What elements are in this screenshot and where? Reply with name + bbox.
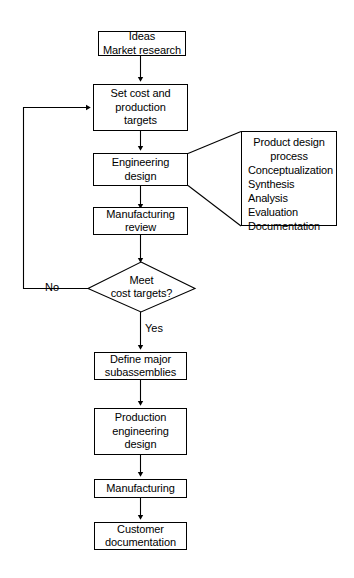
node-set-cost-line2: production [115,101,165,115]
callout-line-bottom [188,186,241,227]
node-customer-documentation[interactable]: Customer documentation [94,522,187,550]
node-subassemblies-line2: subassemblies [105,366,176,380]
node-manufacturing-line1: Manufacturing [106,482,174,496]
node-ideas-line2: Market research [103,44,181,58]
node-engineering-design[interactable]: Engineering design [93,153,188,186]
node-engineering-line1: Engineering [112,156,170,170]
node-set-cost-line3: targets [124,114,157,128]
callout-title-line2: process [242,149,336,163]
connector-decision-no-feedback-loop [24,108,90,289]
callout-item-documentation: Documentation [242,219,336,233]
edge-label-yes: Yes [145,322,163,335]
flowchart-canvas: Ideas Market research Set cost and produ… [0,0,354,578]
callout-title-line1: Product design [242,135,336,149]
node-manufacturing[interactable]: Manufacturing [94,479,187,498]
node-production-line3: design [125,438,157,452]
node-customerdoc-line1: Customer [117,523,164,537]
node-subassemblies-line1: Define major [110,353,171,367]
node-ideas[interactable]: Ideas Market research [98,31,186,56]
node-define-major-subassemblies[interactable]: Define major subassemblies [94,352,187,380]
callout-item-analysis: Analysis [242,191,336,205]
node-review-line1: Manufacturing [106,208,174,222]
node-set-cost-line1: Set cost and [111,87,171,101]
callout-box-product-design-process[interactable]: Product design process Conceptualization… [241,131,337,226]
node-customerdoc-line2: documentation [105,536,176,550]
edge-label-no: No [45,281,59,294]
node-set-cost-targets[interactable]: Set cost and production targets [93,84,188,131]
node-manufacturing-review[interactable]: Manufacturing review [93,207,188,235]
node-production-line1: Production [115,411,167,425]
node-review-line2: review [125,221,156,235]
callout-item-conceptualization: Conceptualization [242,163,336,177]
callout-item-synthesis: Synthesis [242,177,336,191]
node-production-engineering-design[interactable]: Production engineering design [94,408,187,455]
callout-item-evaluation: Evaluation [242,205,336,219]
callout-line-top [188,132,241,154]
node-engineering-line2: design [125,170,157,184]
node-production-line2: engineering [112,425,168,439]
node-ideas-line1: Ideas [129,30,155,44]
